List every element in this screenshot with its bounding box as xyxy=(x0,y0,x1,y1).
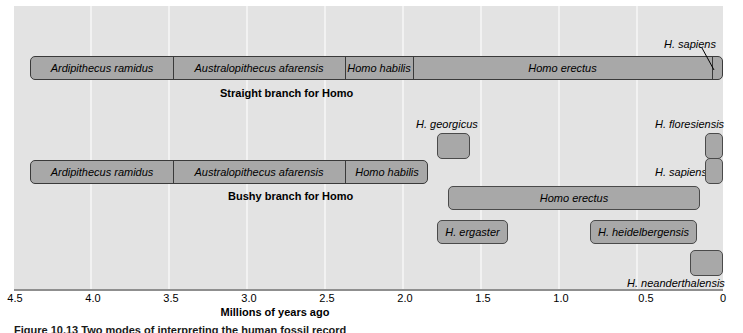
label-h-neanderthalensis: H. neanderthalensis xyxy=(627,277,725,289)
axis-tick-label: 0 xyxy=(720,292,726,304)
bushy-branch-caption: Bushy branch for Homo xyxy=(228,190,353,202)
bar-h-floresiensis xyxy=(705,133,723,159)
gridline xyxy=(558,6,560,289)
axis-tick-label: 3.5 xyxy=(163,292,178,304)
bar-h-heidelbergensis: H. heidelbergensis xyxy=(590,220,697,244)
label-h-sapiens-bushy: H. sapiens xyxy=(655,166,707,178)
chart-plot-area xyxy=(14,6,723,289)
label-h-georgicus: H. georgicus xyxy=(416,118,478,130)
bar-h-ergaster: H. ergaster xyxy=(437,220,508,244)
axis-tick-label: 1.0 xyxy=(553,292,568,304)
gridline xyxy=(168,6,170,289)
bar-homo-habilis-bushy: Homo habilis xyxy=(345,161,429,183)
gridline xyxy=(90,6,92,289)
evolution-timeline-figure: Ardipithecus ramidus Australopithecus af… xyxy=(0,0,743,333)
axis-tick-label: 4.5 xyxy=(7,292,22,304)
axis-tick-label: 1.5 xyxy=(475,292,490,304)
bar-homo-habilis-straight: Homo habilis xyxy=(345,57,413,79)
figure-caption: Figure 10.13 Two modes of interpreting t… xyxy=(14,324,346,333)
axis-tick-label: 0.5 xyxy=(638,292,653,304)
bar-ardipithecus-ramidus-bushy: Ardipithecus ramidus xyxy=(31,161,173,183)
gridline xyxy=(480,6,482,289)
axis-tick-label: 2.5 xyxy=(319,292,334,304)
gridline xyxy=(324,6,326,289)
bar-h-sapiens-bushy xyxy=(705,158,723,184)
axis-tick-label: 3.0 xyxy=(241,292,256,304)
straight-branch-strip: Ardipithecus ramidus Australopithecus af… xyxy=(30,56,723,80)
bar-homo-erectus-bushy: Homo erectus xyxy=(448,186,700,210)
straight-branch-caption: Straight branch for Homo xyxy=(220,87,353,99)
axis-tick-label: 4.0 xyxy=(85,292,100,304)
bar-australopithecus-afarensis-bushy: Australopithecus afarensis xyxy=(173,161,345,183)
bar-australopithecus-afarensis-straight: Australopithecus afarensis xyxy=(173,57,345,79)
bushy-branch-strip: Ardipithecus ramidus Australopithecus af… xyxy=(30,160,428,184)
bar-ardipithecus-ramidus-straight: Ardipithecus ramidus xyxy=(31,57,173,79)
label-h-floresiensis: H. floresiensis xyxy=(655,118,724,130)
gridline xyxy=(636,6,638,289)
bar-h-neanderthalensis xyxy=(690,250,723,276)
x-axis-title: Millions of years ago xyxy=(221,306,330,318)
gridline xyxy=(246,6,248,289)
leader-line-h-sapiens-straight xyxy=(700,46,728,72)
gridline xyxy=(402,6,404,289)
axis-tick-label: 2.0 xyxy=(397,292,412,304)
x-axis-line xyxy=(14,289,723,291)
bar-homo-erectus-straight: Homo erectus xyxy=(413,57,712,79)
bar-h-georgicus xyxy=(437,133,470,159)
